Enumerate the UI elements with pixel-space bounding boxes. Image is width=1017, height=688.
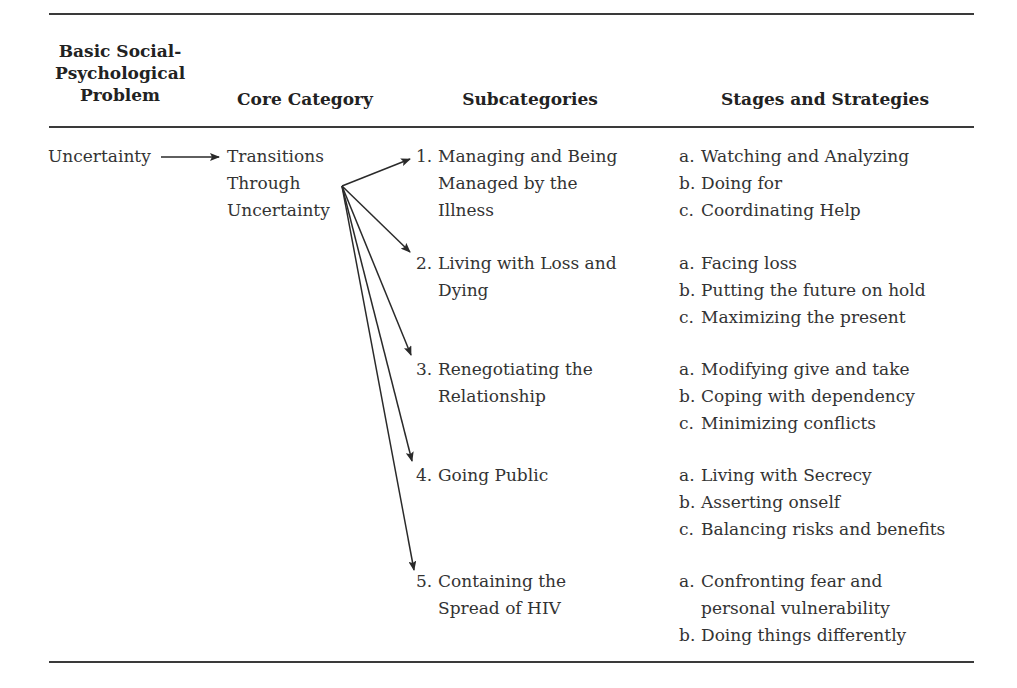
- arrow-to-sub-4: [342, 186, 412, 461]
- subcategory-line: Illness: [416, 197, 617, 224]
- stage-item: a.Facing loss: [679, 250, 926, 277]
- header-stages: Stages and Strategies: [700, 88, 950, 110]
- subcategory-line: Spread of HIV: [416, 595, 566, 622]
- arrow-to-sub-2: [342, 186, 410, 252]
- core-line: Transitions: [227, 143, 330, 170]
- subcategory-line: Going Public: [438, 465, 548, 485]
- arrow-to-sub-1: [342, 159, 410, 186]
- stages-2: a.Facing loss b.Putting the future on ho…: [679, 250, 926, 331]
- stage-item: personal vulnerability: [679, 595, 906, 622]
- top-rule: [49, 13, 974, 15]
- stage-item: b.Asserting onself: [679, 489, 945, 516]
- core-line: Through: [227, 170, 330, 197]
- header-problem-line: Psychological: [40, 62, 200, 84]
- subcategory-line: Dying: [416, 277, 617, 304]
- subcategory-line: Managed by the: [416, 170, 617, 197]
- stage-item: a.Confronting fear and: [679, 568, 906, 595]
- subcategory-2: 2.Living with Loss and Dying: [416, 250, 617, 304]
- core-line: Uncertainty: [227, 197, 330, 224]
- subcategory-number: 1.: [416, 143, 438, 170]
- stages-5: a.Confronting fear and personal vulnerab…: [679, 568, 906, 649]
- stage-item: c.Maximizing the present: [679, 304, 926, 331]
- subcategory-line: Renegotiating the: [438, 359, 593, 379]
- subcategory-number: 3.: [416, 356, 438, 383]
- stage-item: b.Coping with dependency: [679, 383, 915, 410]
- stage-item: b.Doing for: [679, 170, 909, 197]
- header-subcategories: Subcategories: [440, 88, 620, 110]
- stage-item: c.Balancing risks and benefits: [679, 516, 945, 543]
- bottom-rule: [49, 661, 974, 663]
- subcategory-number: 5.: [416, 568, 438, 595]
- subcategory-line: Relationship: [416, 383, 593, 410]
- subcategory-line: Living with Loss and: [438, 253, 617, 273]
- subcategory-1: 1.Managing and Being Managed by the Illn…: [416, 143, 617, 224]
- header-problem-line: Problem: [40, 84, 200, 106]
- stage-item: c.Minimizing conflicts: [679, 410, 915, 437]
- subcategory-line: Containing the: [438, 571, 566, 591]
- core-category: Transitions Through Uncertainty: [227, 143, 330, 224]
- header-core-category: Core Category: [220, 88, 390, 110]
- arrow-to-sub-5: [342, 186, 414, 570]
- subcategory-number: 2.: [416, 250, 438, 277]
- stage-item: c.Coordinating Help: [679, 197, 909, 224]
- stages-1: a.Watching and Analyzing b.Doing for c.C…: [679, 143, 909, 224]
- header-problem: Basic Social- Psychological Problem: [40, 40, 200, 106]
- subcategory-5: 5.Containing the Spread of HIV: [416, 568, 566, 622]
- subcategory-4: 4.Going Public: [416, 462, 548, 489]
- subcategory-3: 3.Renegotiating the Relationship: [416, 356, 593, 410]
- stage-item: a.Living with Secrecy: [679, 462, 945, 489]
- stage-item: b.Putting the future on hold: [679, 277, 926, 304]
- stages-4: a.Living with Secrecy b.Asserting onself…: [679, 462, 945, 543]
- arrow-to-sub-3: [342, 186, 411, 355]
- header-problem-line: Basic Social-: [40, 40, 200, 62]
- stage-item: b.Doing things differently: [679, 622, 906, 649]
- stages-3: a.Modifying give and take b.Coping with …: [679, 356, 915, 437]
- stage-item: a.Modifying give and take: [679, 356, 915, 383]
- subcategory-number: 4.: [416, 462, 438, 489]
- subcategory-line: Managing and Being: [438, 146, 617, 166]
- stage-item: a.Watching and Analyzing: [679, 143, 909, 170]
- header-rule: [49, 126, 974, 128]
- problem-uncertainty: Uncertainty: [48, 143, 151, 170]
